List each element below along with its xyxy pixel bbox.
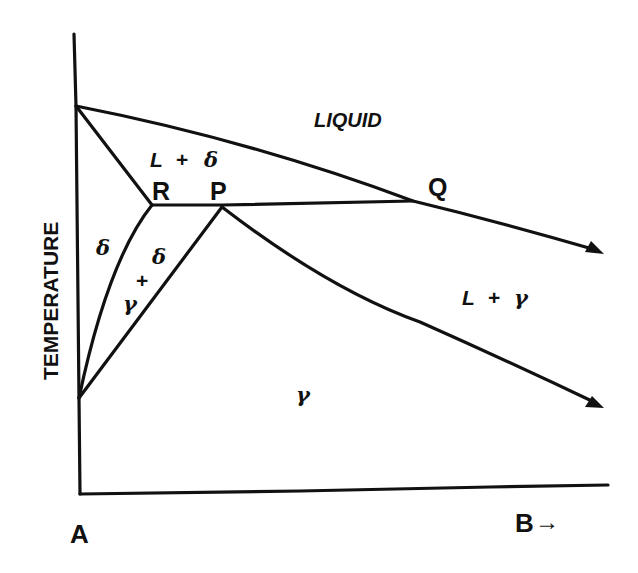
region-label-gamma-delta-plus: + <box>136 269 148 292</box>
region-label-gamma: γ <box>296 382 311 407</box>
y-axis <box>74 34 80 494</box>
x-end-label-b: B <box>515 508 534 538</box>
peritectic-isotherm <box>152 201 413 205</box>
region-label-gamma-delta-gamma: γ <box>123 291 138 316</box>
region-label-l-plus-gamma-plus: + <box>488 286 500 309</box>
y-axis-title: TEMPERATURE <box>39 222 62 380</box>
region-label-gamma-delta-delta: δ <box>151 244 166 269</box>
liquidus-arrowhead <box>585 241 604 254</box>
x-axis <box>80 485 608 494</box>
gamma-solidus-line <box>222 207 596 403</box>
region-label-l-plus-gamma-gamma: γ <box>514 285 529 310</box>
region-label-delta: δ <box>95 235 110 260</box>
region-label-l-plus-gamma-l: L <box>462 286 475 309</box>
point-label-q: Q <box>428 173 447 201</box>
peritectic-phase-diagram: TEMPERATURE A B → LIQUID L + δ R P Q δ δ… <box>0 0 638 573</box>
delta-solvus-line <box>79 205 152 398</box>
point-label-r: R <box>152 177 170 205</box>
point-label-p: P <box>210 177 227 205</box>
region-label-l-plus-delta-plus: + <box>176 148 188 171</box>
region-label-l-plus-delta-l: L <box>150 148 163 171</box>
region-label-l-plus-delta-delta: δ <box>203 147 218 172</box>
x-direction-arrow-icon: → <box>535 508 559 535</box>
origin-label-a: A <box>70 519 89 549</box>
region-label-liquid: LIQUID <box>314 109 382 131</box>
